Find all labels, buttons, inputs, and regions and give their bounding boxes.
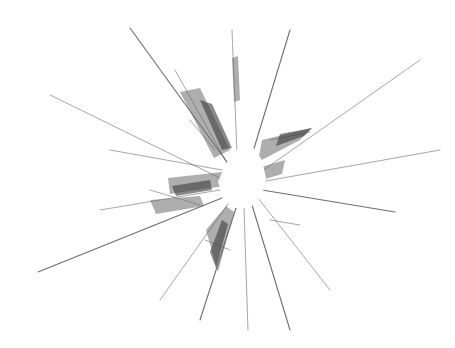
impact-hole: [218, 146, 266, 208]
shattered-glass-image: [0, 0, 455, 348]
